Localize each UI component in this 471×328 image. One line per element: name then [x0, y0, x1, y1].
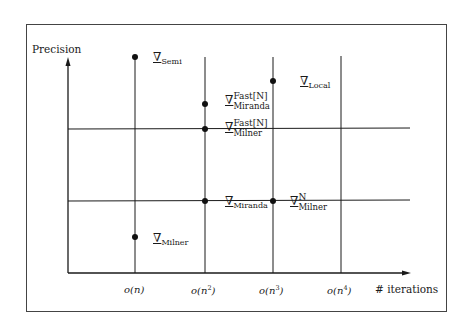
- nabla-icon: ∇: [225, 120, 233, 134]
- label-n-milner: ∇NMilner: [290, 193, 327, 212]
- label-semi: ∇Semi: [153, 51, 182, 63]
- point-miranda: [202, 198, 208, 204]
- x-axis-arrow-icon: [402, 271, 411, 276]
- label-miranda: ∇Miranda: [225, 195, 268, 207]
- x-axis-label: # iterations: [375, 284, 438, 295]
- label-fast-milner: ∇Fast[N]Milner: [225, 119, 268, 138]
- point-fast-milner: [202, 126, 208, 132]
- point-milner: [132, 234, 138, 240]
- x-tick-o-n: o(n): [124, 285, 144, 295]
- y-axis-arrow-icon: [66, 57, 71, 66]
- label-milner: ∇Milner: [153, 232, 188, 244]
- point-semi: [132, 54, 138, 60]
- label-local: ∇Local: [300, 75, 330, 87]
- point-fast-miranda: [202, 101, 208, 107]
- label-fast-miranda: ∇Fast[N]Miranda: [225, 92, 270, 111]
- x-tick-o-n4: o(n4): [327, 285, 351, 296]
- nabla-icon: ∇: [225, 93, 233, 107]
- x-tick-o-n3: o(n3): [259, 285, 283, 296]
- nabla-icon: ∇: [290, 194, 298, 208]
- x-tick-o-n2: o(n2): [191, 285, 215, 296]
- y-axis-label: Precision: [32, 44, 81, 55]
- point-n-milner: [270, 198, 276, 204]
- point-local: [270, 78, 276, 84]
